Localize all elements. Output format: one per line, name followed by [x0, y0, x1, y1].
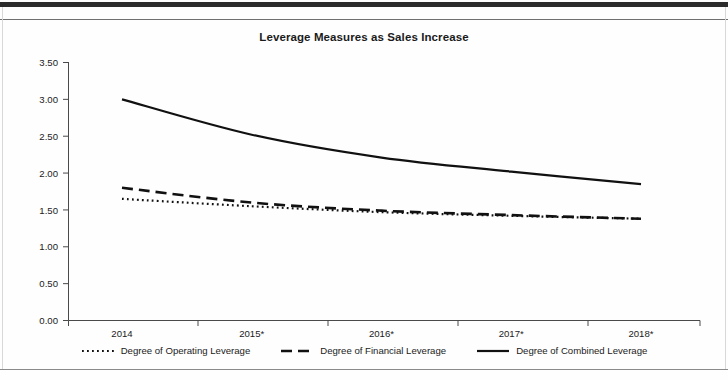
- x-tick-marks: [69, 321, 701, 327]
- legend-item[interactable]: Degree of Operating Leverage: [81, 345, 251, 356]
- x-tick-label: 2015*: [239, 328, 264, 339]
- x-tick-label: 2016*: [369, 328, 394, 339]
- x-tick-label: 2018*: [628, 328, 653, 339]
- x-tick-label: 2014: [111, 328, 133, 339]
- y-tick-label: 3.50: [39, 57, 58, 68]
- legend-label: Degree of Combined Leverage: [516, 345, 647, 356]
- y-tick-label: 1.50: [39, 205, 58, 216]
- legend-swatch-solid: [476, 346, 510, 356]
- series-line: [122, 188, 641, 219]
- y-tick-label: 0.50: [39, 278, 58, 289]
- chart-legend: Degree of Operating LeverageDegree of Fi…: [0, 345, 728, 356]
- series-line: [122, 99, 641, 184]
- x-tick-label: 2017*: [499, 328, 524, 339]
- data-series-group: [122, 99, 641, 218]
- x-axis: 20142015*2016*2017*2018*: [69, 321, 701, 339]
- y-tick-labels: 0.000.501.001.502.002.503.003.50: [39, 57, 58, 326]
- y-tick-label: 3.00: [39, 94, 58, 105]
- legend-label: Degree of Operating Leverage: [121, 345, 251, 356]
- x-tick-labels: 20142015*2016*2017*2018*: [111, 328, 653, 339]
- legend-swatch-dotted: [81, 346, 115, 356]
- y-tick-label: 2.00: [39, 168, 58, 179]
- y-tick-label: 1.00: [39, 241, 58, 252]
- y-tick-label: 2.50: [39, 131, 58, 142]
- plot-area: 0.000.501.001.502.002.503.003.50 2014201…: [0, 0, 728, 380]
- legend-item[interactable]: Degree of Financial Leverage: [280, 345, 446, 356]
- y-tick-marks: [63, 63, 69, 321]
- legend-item[interactable]: Degree of Combined Leverage: [476, 345, 647, 356]
- legend-label: Degree of Financial Leverage: [320, 345, 446, 356]
- legend-swatch-dashed: [280, 346, 314, 356]
- chart-figure: Leverage Measures as Sales Increase 0.00…: [0, 0, 728, 380]
- y-axis: 0.000.501.001.502.002.503.003.50: [39, 57, 68, 326]
- y-tick-label: 0.00: [39, 315, 58, 326]
